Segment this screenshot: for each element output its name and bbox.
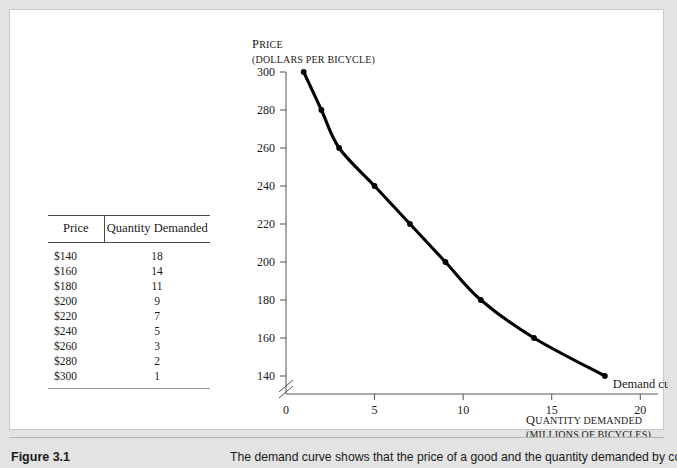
x-tick-label: 5 [372, 403, 378, 417]
data-point-marker [478, 297, 484, 303]
cell-quantity: 1 [104, 369, 210, 384]
figure-panel: Price Quantity Demanded $14018$16014$180… [9, 9, 664, 430]
cell-quantity: 7 [104, 309, 210, 324]
cell-price: $300 [48, 369, 104, 384]
y-tick-label: 280 [257, 103, 275, 117]
y-tick-label: 260 [257, 141, 275, 155]
cell-quantity: 3 [104, 339, 210, 354]
column-header-price: Price [48, 216, 104, 243]
cell-price: $200 [48, 294, 104, 309]
data-point-marker [336, 145, 342, 151]
x-axis-title: QUANTITY DEMANDED [526, 413, 642, 427]
table-row: $2802 [48, 354, 210, 369]
table-header: Price Quantity Demanded [48, 216, 210, 243]
data-point-marker [531, 335, 537, 341]
figure-caption: The demand curve shows that the price of… [230, 450, 670, 464]
data-point-marker [372, 183, 378, 189]
table-bottom-rule [48, 388, 210, 389]
y-tick-label: 220 [257, 217, 275, 231]
cell-quantity: 18 [104, 243, 210, 264]
demand-curve-line [304, 72, 605, 376]
data-point-marker [301, 69, 307, 75]
figure-page: Price Quantity Demanded $14018$16014$180… [0, 0, 677, 468]
caption-divider [9, 437, 664, 438]
data-point-marker [602, 373, 608, 379]
table-row: $2207 [48, 309, 210, 324]
origin-label: 0 [283, 403, 289, 417]
data-point-marker [319, 107, 325, 113]
x-tick-label: 10 [457, 403, 469, 417]
x-axis-ticks: 5101520 [372, 394, 647, 417]
demand-curve-chart: PRICE (DOLLARS PER BICYCLE) 140160180200… [238, 24, 668, 444]
cell-price: $280 [48, 354, 104, 369]
y-tick-label: 240 [257, 179, 275, 193]
table-row: $2603 [48, 339, 210, 354]
table-row: $18011 [48, 279, 210, 294]
cell-price: $240 [48, 324, 104, 339]
table-body: $14018$16014$18011$2009$2207$2405$2603$2… [48, 243, 210, 384]
y-tick-label: 180 [257, 293, 275, 307]
column-header-quantity: Quantity Demanded [104, 216, 210, 243]
y-tick-label: 300 [257, 65, 275, 79]
cell-price: $180 [48, 279, 104, 294]
demand-schedule-table: Price Quantity Demanded $14018$16014$180… [48, 215, 210, 384]
figure-number: Figure 3.1 [11, 450, 70, 464]
y-tick-label: 140 [257, 369, 275, 383]
demand-curve-label: Demand curve [613, 377, 668, 391]
y-tick-label: 160 [257, 331, 275, 345]
table-row: $14018 [48, 243, 210, 264]
cell-quantity: 11 [104, 279, 210, 294]
y-axis-ticks: 140160180200220240260280300 [257, 65, 286, 383]
cell-price: $140 [48, 243, 104, 264]
table-row: $16014 [48, 264, 210, 279]
table-row: $2009 [48, 294, 210, 309]
table-header-row: Price Quantity Demanded [48, 216, 210, 243]
table-row: $2405 [48, 324, 210, 339]
cell-quantity: 14 [104, 264, 210, 279]
cell-quantity: 5 [104, 324, 210, 339]
cell-price: $160 [48, 264, 104, 279]
table-row: $3001 [48, 369, 210, 384]
y-axis-title: PRICE [252, 37, 283, 51]
data-point-marker [443, 259, 449, 265]
demand-curve-points [301, 69, 608, 379]
cell-quantity: 2 [104, 354, 210, 369]
data-point-marker [407, 221, 413, 227]
cell-price: $260 [48, 339, 104, 354]
y-tick-label: 200 [257, 255, 275, 269]
cell-price: $220 [48, 309, 104, 324]
cell-quantity: 9 [104, 294, 210, 309]
